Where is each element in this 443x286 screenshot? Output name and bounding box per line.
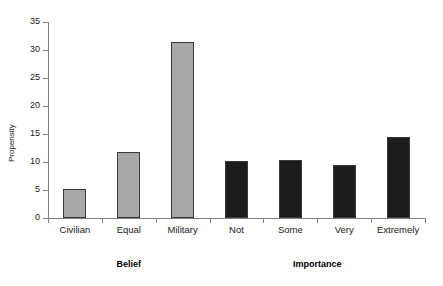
- y-tick: [43, 22, 48, 23]
- y-tick-label: 25: [8, 72, 40, 83]
- y-tick-label: 20: [8, 100, 40, 111]
- x-tick: [210, 218, 211, 223]
- bar: [225, 161, 248, 218]
- y-tick: [43, 78, 48, 79]
- y-tick: [43, 106, 48, 107]
- bar: [333, 165, 356, 218]
- x-tick: [48, 218, 49, 223]
- plot-area: 05101520253035: [48, 22, 425, 218]
- x-tick: [263, 218, 264, 223]
- y-axis-line: [48, 22, 49, 218]
- y-tick-label: 5: [8, 184, 40, 195]
- y-tick-label: 15: [8, 128, 40, 139]
- y-tick-label: 0: [8, 212, 40, 223]
- bar-chart-figure: Propensity 05101520253035 CivilianEqualM…: [0, 0, 443, 286]
- group-label: Belief: [79, 258, 179, 270]
- y-tick: [43, 50, 48, 51]
- bar: [279, 160, 302, 218]
- y-tick-label: 30: [8, 44, 40, 55]
- y-tick: [43, 134, 48, 135]
- x-tick: [156, 218, 157, 223]
- x-tick: [371, 218, 372, 223]
- bar: [171, 42, 194, 218]
- y-tick-label: 10: [8, 156, 40, 167]
- bar: [117, 152, 140, 218]
- group-label: Importance: [267, 258, 367, 270]
- x-tick: [425, 218, 426, 223]
- y-tick: [43, 162, 48, 163]
- y-tick: [43, 190, 48, 191]
- bar: [63, 189, 86, 218]
- x-tick: [317, 218, 318, 223]
- x-tick: [102, 218, 103, 223]
- x-category-label: Extremely: [358, 224, 438, 236]
- x-axis-line: [48, 218, 425, 219]
- y-tick-label: 35: [8, 16, 40, 27]
- bar: [387, 137, 410, 218]
